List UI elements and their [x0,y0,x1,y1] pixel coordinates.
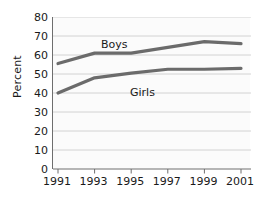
x-tick-label: 1999 [183,176,223,188]
x-tick-label: 2001 [220,176,260,188]
x-tick-label: 1997 [147,176,187,188]
x-axis-tick-labels: 1991 1993 1995 1997 1999 2001 [0,0,261,216]
x-tick-label: 1991 [37,176,77,188]
line-chart: Percent 80 70 60 50 40 30 20 10 0 1991 1… [0,0,261,216]
series-label-girls: Girls [130,86,155,99]
series-label-boys: Boys [101,38,128,51]
x-tick-label: 1993 [74,176,114,188]
x-tick-label: 1995 [110,176,150,188]
